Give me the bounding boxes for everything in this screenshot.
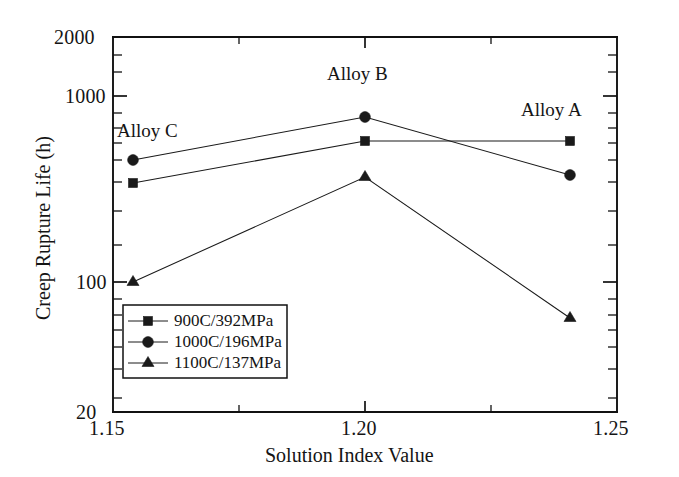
- marker-triangle: [359, 171, 371, 181]
- legend-label-1100c: 1100C/137MPa: [174, 353, 281, 373]
- annotation-alloy-a: Alloy A: [521, 99, 582, 121]
- annotation-alloy-c: Alloy C: [117, 120, 178, 142]
- marker-square: [129, 179, 138, 188]
- legend-label-1000c: 1000C/196MPa: [174, 332, 282, 352]
- series-1100c-137mpa: [127, 171, 576, 322]
- annotation-alloy-b: Alloy B: [327, 63, 388, 85]
- marker-square: [566, 137, 575, 146]
- marker-circle: [128, 155, 139, 166]
- marker-circle: [360, 112, 371, 123]
- x-tick-label-120: 1.20: [341, 417, 377, 440]
- series-1000c-196mpa: [128, 112, 576, 181]
- legend-label-900c: 900C/392MPa: [174, 311, 273, 331]
- y-tick-label-100: 100: [76, 271, 107, 294]
- x-tick-label-125: 1.25: [593, 417, 629, 440]
- y-axis-title: Creep Rupture Life (h): [32, 136, 55, 320]
- y-tick-label-1000: 1000: [65, 85, 106, 108]
- y-tick-label-2000: 2000: [54, 26, 95, 49]
- series-900c-392mpa: [129, 137, 575, 188]
- x-tick-label-115: 1.15: [89, 417, 125, 440]
- marker-circle: [565, 170, 576, 181]
- marker-triangle: [564, 312, 576, 322]
- marker-square: [361, 137, 370, 146]
- legend-marker-square: [144, 317, 153, 326]
- x-axis-title: Solution Index Value: [265, 444, 434, 467]
- y-axis-right-ticks: [603, 55, 617, 398]
- legend-marker-circle: [143, 337, 154, 348]
- chart-figure: 2000 1000 100 20 1.15 1.20 1.25 Creep Ru…: [0, 0, 679, 477]
